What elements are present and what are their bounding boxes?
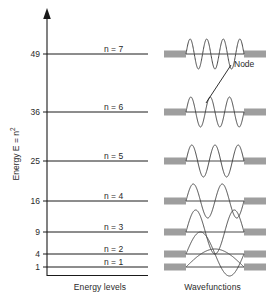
well-wall-left-n4 <box>164 198 186 205</box>
axis-arrow-icon <box>43 8 51 19</box>
y-axis-ticks <box>43 54 47 267</box>
y-axis-label: Energy E = n2 <box>9 111 21 197</box>
well-wall-left-n7 <box>164 51 186 58</box>
well-wall-right-n5 <box>244 158 266 165</box>
well-wall-right-n3 <box>244 229 266 236</box>
wavefunction-curve-n1 <box>186 249 244 267</box>
well-wall-right-n7 <box>244 51 266 58</box>
y-tick-label: 25 <box>18 156 40 166</box>
energy-level-lines <box>47 54 148 267</box>
well-wall-right-n2 <box>244 251 266 258</box>
well-wall-left-n3 <box>164 229 186 236</box>
wavefunction-plots <box>164 39 266 276</box>
caption-wavefunctions: Wavefunctions <box>160 282 265 292</box>
node-annotation-label: Node <box>234 59 254 69</box>
well-wall-left-n5 <box>164 158 186 165</box>
energy-level-label-n6: n = 6 <box>104 102 123 112</box>
y-tick-label: 36 <box>18 107 40 117</box>
well-wall-left-n2 <box>164 251 186 258</box>
y-axis <box>43 8 51 276</box>
energy-level-label-n7: n = 7 <box>104 44 123 54</box>
energy-levels-wavefunctions-figure <box>0 0 272 299</box>
well-wall-left-n6 <box>164 109 186 116</box>
energy-level-label-n2: n = 2 <box>104 244 123 254</box>
energy-level-label-n5: n = 5 <box>104 151 123 161</box>
well-wall-right-n6 <box>244 109 266 116</box>
energy-level-label-n1: n = 1 <box>104 257 123 267</box>
y-tick-label: 4 <box>18 249 40 259</box>
y-tick-label: 49 <box>18 49 40 59</box>
well-wall-right-n4 <box>244 198 266 205</box>
y-tick-label: 1 <box>18 262 40 272</box>
y-tick-label: 9 <box>18 227 40 237</box>
energy-level-label-n3: n = 3 <box>104 222 123 232</box>
y-tick-label: 16 <box>18 196 40 206</box>
node-pointer-line <box>206 65 231 103</box>
well-wall-right-n1 <box>244 264 266 271</box>
caption-energy-levels: Energy levels <box>55 282 145 292</box>
well-wall-left-n1 <box>164 264 186 271</box>
y-axis-label-exponent: 2 <box>9 127 16 131</box>
energy-level-label-n4: n = 4 <box>104 191 123 201</box>
